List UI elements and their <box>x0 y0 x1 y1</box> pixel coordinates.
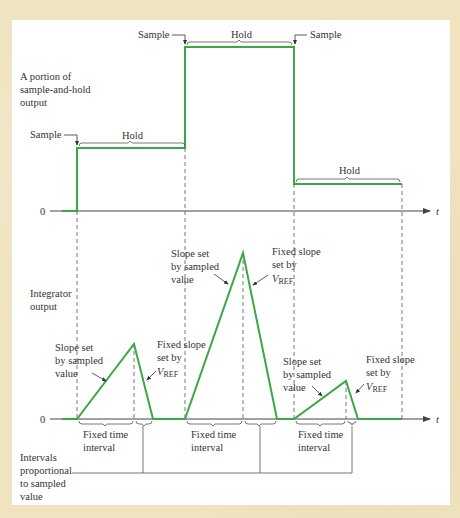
fixed-interval-brace-2-icon <box>187 421 242 426</box>
ramp-down-3-line-2: set by <box>366 367 392 378</box>
fixed-interval-1-line-1: Fixed time <box>83 429 129 440</box>
fixed-interval-1-line-2: interval <box>83 442 115 453</box>
sh-title-line-3: output <box>20 97 47 108</box>
sample-and-hold-integrator-diagram: A portion of sample-and-hold output 0 t … <box>0 0 460 518</box>
ramp-up-3-pointer-icon <box>312 386 322 396</box>
ramp-down-1-pointer-icon <box>147 371 156 380</box>
dashed-guides <box>77 148 402 419</box>
proportional-brace-2-icon <box>245 421 276 426</box>
hold-brace-3-icon <box>296 177 400 182</box>
integrator-axis-t-label: t <box>436 414 440 425</box>
hold-label-2: Hold <box>231 29 253 40</box>
ramp-up-2-line-1: Slope set <box>171 248 209 259</box>
ramp-up-1-line-2: by sampled <box>55 355 104 366</box>
sample-label-3: Sample <box>310 29 342 40</box>
proportional-label-line-2: proportional <box>20 465 72 476</box>
ramp-down-2-pointer-icon <box>253 275 268 285</box>
sample-label-1: Sample <box>30 129 62 140</box>
hold-label-1: Hold <box>122 130 144 141</box>
ramp-up-3-line-1: Slope set <box>283 356 321 367</box>
ramp-up-3-line-2: by sampled <box>283 369 332 380</box>
hold-label-3: Hold <box>339 165 361 176</box>
sh-title-line-1: A portion of <box>20 71 72 82</box>
fixed-interval-2-line-2: interval <box>191 442 223 453</box>
ramp-down-3-pointer-icon <box>356 384 364 393</box>
sample-label-2: Sample <box>138 29 170 40</box>
fixed-interval-brace-3-icon <box>296 421 345 426</box>
sample-3-pointer-icon <box>295 35 307 44</box>
integrator-title-line-2: output <box>30 301 57 312</box>
fixed-interval-2-line-1: Fixed time <box>191 429 237 440</box>
sample-2-pointer-icon <box>172 35 185 44</box>
ramp-up-1-pointer-icon <box>92 373 106 381</box>
sh-waveform <box>62 47 402 211</box>
proportional-label-line-1: Intervals <box>20 452 57 463</box>
hold-brace-1-icon <box>79 141 185 146</box>
sample-and-hold-panel: A portion of sample-and-hold output 0 t … <box>20 29 440 217</box>
integrator-waveform <box>62 253 402 419</box>
hold-brace-2-icon <box>187 40 292 45</box>
ramp-up-2-line-2: by sampled <box>171 261 220 272</box>
integrator-panel: Integrator output 0 t Slope set by sampl… <box>20 246 440 502</box>
proportional-brace-3-icon <box>348 421 356 425</box>
vref-label-1: VREF <box>157 366 179 379</box>
ramp-up-1-line-1: Slope set <box>55 342 93 353</box>
integrator-title-line-1: Integrator <box>30 288 72 299</box>
ramp-down-2-line-2: set by <box>272 259 298 270</box>
fixed-interval-brace-1-icon <box>79 421 133 426</box>
vref-label-2: VREF <box>272 273 294 286</box>
fixed-interval-3-line-2: interval <box>298 442 330 453</box>
sample-1-pointer-icon <box>64 135 77 145</box>
interval-braces <box>79 421 356 426</box>
integrator-zero-label: 0 <box>40 414 45 425</box>
proportional-brace-1-icon <box>136 421 152 426</box>
ramp-up-3-line-3: value <box>283 382 306 393</box>
ramp-up-2-line-3: value <box>171 274 194 285</box>
ramp-down-2-line-1: Fixed slope <box>272 246 321 257</box>
ramp-down-1-line-2: set by <box>157 352 183 363</box>
proportional-label-line-3: to sampled <box>20 478 67 489</box>
ramp-up-2-pointer-icon <box>214 274 228 284</box>
vref-label-3: VREF <box>366 381 388 394</box>
proportional-label-line-4: value <box>20 491 43 502</box>
sh-title-line-2: sample-and-hold <box>20 84 91 95</box>
sh-zero-label: 0 <box>40 206 45 217</box>
ramp-down-1-line-1: Fixed slope <box>157 339 206 350</box>
sh-axis-t-label: t <box>436 206 440 217</box>
ramp-down-3-line-1: Fixed slope <box>366 354 415 365</box>
ramp-up-1-line-3: value <box>55 368 78 379</box>
fixed-interval-3-line-1: Fixed time <box>298 429 344 440</box>
